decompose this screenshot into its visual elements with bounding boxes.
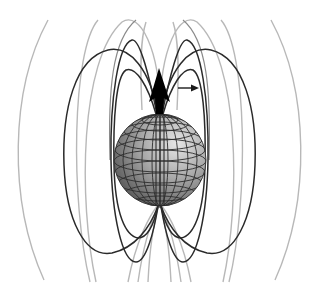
globe [114, 112, 206, 208]
field-direction-arrow [178, 85, 199, 92]
dipole-field-diagram [0, 0, 319, 293]
